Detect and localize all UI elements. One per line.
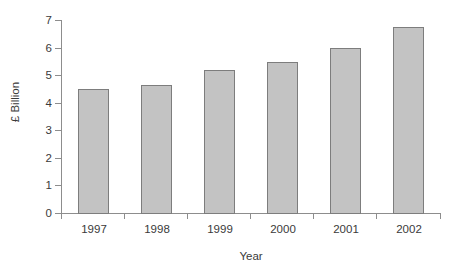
y-tick-mark-3 [55,130,61,131]
y-tick-label-3: 3 [28,125,52,136]
x-tick-label-2002: 2002 [378,223,440,236]
y-tick-5: 5 [0,70,52,81]
x-tick-label-2000: 2000 [252,223,314,236]
y-tick-label-1: 1 [28,180,52,191]
y-tick-1: 1 [0,180,52,191]
y-tick-0: 0 [0,208,52,219]
y-tick-6: 6 [0,43,52,54]
bar-chart: 0 1 2 3 4 5 6 7 [0,0,454,279]
x-tick-label-1999: 1999 [189,223,251,236]
x-axis-title: Year [61,250,441,262]
bar-2002 [393,27,424,214]
y-axis-line [61,20,62,214]
bar-2001 [330,48,361,214]
x-tick-mark-6 [440,213,441,219]
y-tick-label-5: 5 [28,70,52,81]
bar-1998 [141,85,172,214]
x-tick-mark-3 [250,213,251,219]
y-axis-title: £ Billion [9,67,21,137]
y-tick-mark-6 [55,48,61,49]
y-tick-label-2: 2 [28,153,52,164]
x-tick-mark-5 [376,213,377,219]
x-tick-label-1997: 1997 [63,223,125,236]
y-tick-label-4: 4 [28,98,52,109]
y-tick-4: 4 [0,98,52,109]
x-tick-mark-4 [313,213,314,219]
y-tick-mark-1 [55,185,61,186]
x-tick-label-1998: 1998 [126,223,188,236]
y-tick-7: 7 [0,15,52,26]
x-tick-mark-2 [187,213,188,219]
y-tick-2: 2 [0,153,52,164]
x-tick-label-2001: 2001 [315,223,377,236]
y-tick-3: 3 [0,125,52,136]
bar-2000 [267,62,298,214]
x-tick-mark-0 [61,213,62,219]
x-tick-mark-1 [124,213,125,219]
y-tick-mark-7 [55,20,61,21]
y-tick-mark-2 [55,158,61,159]
y-tick-mark-4 [55,103,61,104]
bar-1999 [204,70,235,214]
bar-1997 [78,89,109,214]
y-tick-label-0: 0 [28,208,52,219]
y-tick-label-7: 7 [28,15,52,26]
x-axis-line [61,213,441,214]
y-tick-mark-5 [55,75,61,76]
plot-area: 0 1 2 3 4 5 6 7 [0,0,454,279]
y-tick-label-6: 6 [28,43,52,54]
